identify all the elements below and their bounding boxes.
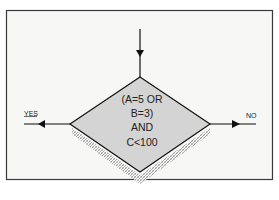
decision-line-4: C<100 (126, 136, 157, 148)
no-label: NO (246, 112, 257, 119)
decision-line-3: AND (131, 121, 154, 133)
yes-label: YES (24, 110, 38, 117)
decision-line-1: (A=5 OR (121, 93, 163, 105)
top-text-fragment (175, 0, 270, 3)
decision-line-2: B=3) (131, 107, 153, 119)
flowchart-diagram: (A=5 OR B=3) AND C<100 YES NO (0, 0, 279, 200)
